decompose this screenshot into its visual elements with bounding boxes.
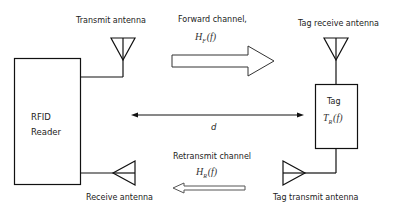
tag-transmit-antenna-label: Tag transmit antenna	[273, 193, 358, 202]
retransmit-channel-label: Retransmit channel	[173, 152, 251, 161]
retransmit-channel-function: HR (f)	[196, 166, 217, 179]
transmit-antenna-icon	[81, 38, 136, 77]
distance-arrow	[131, 113, 304, 118]
retransmit-channel-arrow	[173, 183, 245, 193]
forward-channel-arrow	[172, 46, 274, 76]
transmit-antenna-label: Transmit antenna	[76, 16, 146, 25]
receive-antenna-label: Receive antenna	[86, 193, 153, 202]
tag-receive-antenna-icon	[324, 38, 348, 84]
reader-label-line2: Reader	[31, 127, 61, 137]
forward-channel-function: HF (f)	[195, 31, 216, 44]
forward-channel-label: Forward channel,	[178, 15, 247, 24]
receive-antenna-icon	[81, 161, 136, 185]
tag-receive-antenna-label: Tag receive antenna	[298, 19, 379, 28]
tag-transmit-antenna-icon	[283, 149, 336, 186]
tag-label: Tag	[327, 97, 341, 106]
tag-function: TR (f)	[323, 112, 343, 125]
reader-label-line1: RFID	[31, 112, 51, 122]
distance-label: d	[211, 122, 216, 132]
